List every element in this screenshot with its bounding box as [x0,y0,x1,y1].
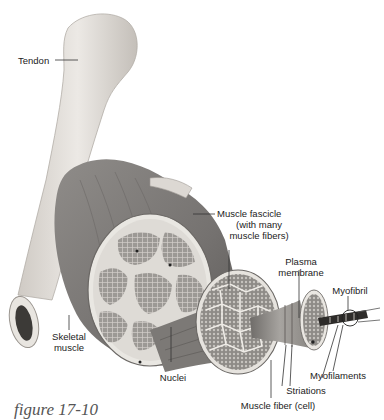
label-nuclei: Nuclei [150,372,196,383]
label-muscle-fascicle-line2: (with many [214,219,304,230]
label-tendon: Tendon [18,55,49,66]
label-striations: Striations [276,385,336,396]
label-myofibril: Myofibril [326,285,374,296]
label-plasma-membrane-line2: membrane [274,267,328,278]
label-muscle-fascicle-line1: Muscle fascicle [217,208,281,219]
figure-caption: figure 17-10 [14,400,98,420]
label-skeletal-muscle-line1: Skeletal [44,331,94,342]
label-muscle-fiber: Muscle fiber (cell) [228,400,328,411]
label-skeletal-muscle-line2: muscle [44,342,94,353]
label-muscle-fascicle-line3: muscle fibers) [214,230,304,241]
label-plasma-membrane-line1: Plasma [274,256,328,267]
label-muscle-fascicle: Muscle fascicle [217,208,281,219]
label-myofilaments: Myofilaments [300,370,376,381]
